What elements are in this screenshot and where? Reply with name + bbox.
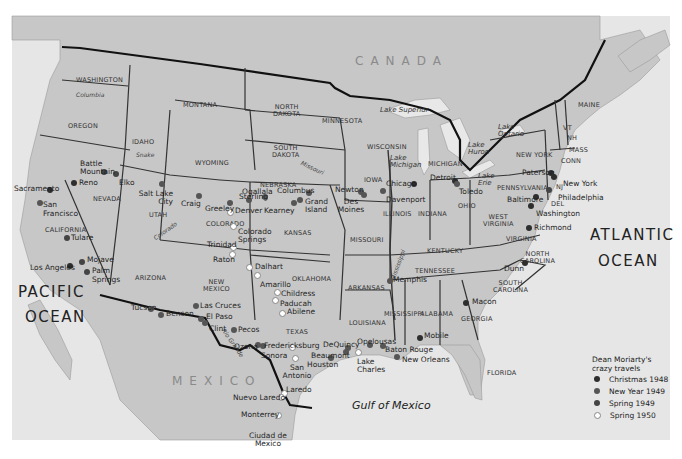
city-label-los-angeles: Los Angeles [30, 264, 75, 272]
state-ohio: OHIO [458, 203, 476, 210]
city-label-baltimore: Baltimore [507, 196, 543, 204]
map-legend: Dean Moriarty'scrazy travels Christmas 1… [592, 356, 678, 421]
city-dot-mojave [79, 259, 85, 265]
city-label-kearney: Kearney [264, 207, 295, 215]
city-dot-macon [463, 300, 469, 306]
city-label-amarillo: Amarillo [260, 281, 291, 289]
city-label-san-francisco: San Francisco [43, 200, 83, 218]
city-label-greeley: Greeley [205, 205, 234, 213]
state-wisconsin: WISCONSIN [367, 144, 407, 151]
city-dot-philadelphia [546, 187, 552, 193]
atlantic-ocean-label: ATLANTIC [590, 228, 675, 243]
city-label-newton: Newton [335, 186, 364, 194]
state-pennsylvania: PENNSYLVANIA [497, 185, 548, 192]
city-label-philadelphia: Philadelphia [558, 194, 604, 202]
city-label-lake-charles: Lake Charles [357, 358, 387, 374]
city-label-sacramento: Sacramento [14, 185, 59, 193]
city-label-san-antonio: San Antonio [280, 364, 314, 380]
city-dot-amarillo [254, 272, 261, 279]
city-dot-san-antonio [292, 355, 299, 362]
city-dot-grand-island [297, 197, 303, 203]
city-label-davenport: Davenport [386, 196, 426, 204]
state-montana: MONTANA [183, 102, 217, 109]
city-label-reno: Reno [79, 179, 98, 187]
map-basemap [0, 0, 682, 459]
city-label-memphis: Memphis [393, 276, 427, 284]
state-utah: UTAH [149, 212, 167, 219]
legend-dot-icon [594, 376, 600, 382]
state-arkansas: ARKANSAS [348, 285, 385, 292]
state-illinois: ILLINOIS [383, 211, 412, 218]
city-label-paterson: Paterson [522, 169, 555, 177]
state-west-virginia: WESTVIRGINIA [483, 214, 514, 227]
city-dot-mobile [417, 335, 423, 341]
state-tennessee: TENNESSEE [415, 268, 455, 275]
state-south-carolina: SOUTHCAROLINA [493, 280, 528, 293]
city-label-detroit: Detroit [430, 174, 456, 182]
city-label-mojave: Mojave [87, 256, 114, 264]
state-missouri: MISSOURI [350, 237, 384, 244]
city-label-new-york: New York [563, 180, 597, 188]
state-arizona: ARIZONA [135, 275, 166, 282]
state-idaho: IDAHO [132, 139, 154, 146]
city-dot-davenport [380, 188, 386, 194]
legend-dot-icon [594, 412, 601, 419]
city-label-denver: Denver [235, 207, 262, 215]
city-label-las-cruces: Las Cruces [200, 302, 241, 310]
state-minnesota: MINNESOTA [322, 118, 362, 125]
city-label-beaumont: Beaumont [311, 352, 350, 360]
city-label-clint: Clint [209, 325, 226, 333]
lake-superior-label: Lake Superior [380, 107, 428, 114]
legend-item-christmas-1948: Christmas 1948 [594, 373, 678, 385]
legend-item-spring-1950: Spring 1950 [594, 409, 678, 421]
gulf-of-mexico-label: Gulf of Mexico [352, 400, 431, 411]
state-virginia: VIRGINIA [506, 236, 537, 243]
state-georgia: GEORGIA [461, 316, 493, 323]
lake-huron-label: LakeHuron [468, 142, 489, 156]
state-alabama: ALABAMA [420, 311, 453, 318]
state-vermont: VT [563, 125, 572, 132]
city-label-dalhart: Dalhart [255, 263, 283, 271]
city-label-dequincy: DeQuincy [323, 341, 359, 349]
city-label-elko: Elko [119, 179, 135, 187]
state-louisiana: LOUISIANA [349, 320, 386, 327]
city-label-colorado-springs: Colorado Springs [238, 228, 278, 244]
city-label-pecos: Pecos [238, 326, 260, 334]
city-label-chicago: Chicago [386, 180, 416, 188]
state-maine: MAINE [578, 102, 600, 109]
state-wyoming: WYOMING [195, 160, 229, 167]
state-washington: WASHINGTON [76, 77, 123, 84]
city-label-trinidad: Trinidad [207, 241, 237, 249]
lake-michigan-label: LakeMichigan [390, 155, 421, 169]
state-oklahoma: OKLAHOMA [292, 276, 331, 283]
city-label-laredo: Laredo [286, 386, 312, 394]
snake-river-label: Snake [136, 152, 154, 158]
city-dot-paducah [272, 297, 279, 304]
city-dot-lake-charles [355, 349, 362, 356]
city-label-mobile: Mobile [424, 332, 449, 340]
city-dot-tulare [64, 235, 70, 241]
city-dot-childress [274, 289, 281, 296]
city-label-new-orleans: New Orleans [402, 356, 450, 364]
city-label-monterrey: Monterrey [241, 411, 279, 419]
city-dot-colorado-springs [230, 223, 237, 230]
us-travel-map: PACIFIC OCEAN ATLANTIC OCEAN Gulf of Mex… [0, 0, 682, 459]
city-label-tucson: Tucson [131, 304, 157, 312]
legend-title: Dean Moriarty'scrazy travels [592, 356, 678, 373]
legend-item-spring-1949: Spring 1949 [594, 397, 678, 409]
city-label-toledo: Toledo [459, 188, 483, 196]
city-label-macon: Macon [472, 298, 497, 306]
legend-dot-icon [594, 388, 600, 394]
city-label-salt-lake-city: Salt Lake City [138, 190, 173, 206]
state-mississippi: MISSISSIPPI [384, 311, 424, 318]
pacific-ocean-label-line2: OCEAN [25, 310, 86, 325]
city-label-fredericksburg: Fredericksburg [264, 342, 319, 350]
city-label-baton-rouge: Baton Rouge [385, 346, 433, 354]
state-michigan: MICHIGAN [428, 161, 463, 168]
city-label-battle-mountain: Battle Mountain [80, 160, 120, 176]
city-label-nuevo-laredo: Nuevo Laredo [233, 394, 285, 402]
state-oregon: OREGON [68, 123, 98, 130]
city-label-tulare: Tulare [71, 234, 93, 242]
legend-dot-icon [594, 400, 600, 406]
city-dot-salt-lake-city [159, 181, 165, 187]
